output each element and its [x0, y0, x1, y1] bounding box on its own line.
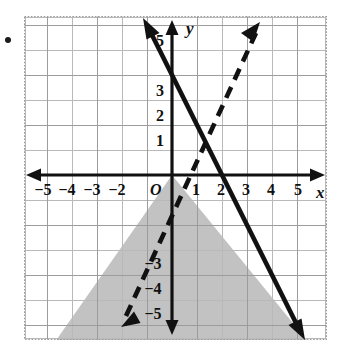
y-axis-label: y — [186, 20, 194, 37]
y-tick-label: 1 — [152, 133, 168, 149]
y-tick-label: −3 — [142, 256, 164, 272]
y-tick-label: 3 — [152, 83, 168, 99]
y-tick-label: 5 — [152, 33, 168, 49]
y-tick-label: −4 — [142, 281, 164, 297]
x-axis-label: x — [316, 184, 325, 201]
x-tick-label: −2 — [107, 182, 127, 198]
x-tick-label: 5 — [290, 182, 306, 198]
origin-label: O — [150, 182, 162, 198]
x-tick-label: 3 — [238, 182, 254, 198]
x-tick-label: 4 — [263, 182, 279, 198]
y-tick-label: 2 — [152, 108, 168, 124]
bullet-marker — [5, 37, 11, 43]
y-tick-label: −5 — [142, 306, 164, 322]
x-tick-label: −3 — [82, 182, 102, 198]
x-tick-label: 1 — [188, 182, 204, 198]
figure-canvas: y x O −5 −4 −3 −2 1 2 3 4 5 5 3 2 1 −3 −… — [0, 0, 346, 354]
x-tick-label: −5 — [33, 182, 53, 198]
graph-svg — [24, 16, 327, 340]
x-tick-label: −4 — [57, 182, 77, 198]
x-tick-label: 2 — [213, 182, 229, 198]
coordinate-plane — [24, 16, 327, 340]
